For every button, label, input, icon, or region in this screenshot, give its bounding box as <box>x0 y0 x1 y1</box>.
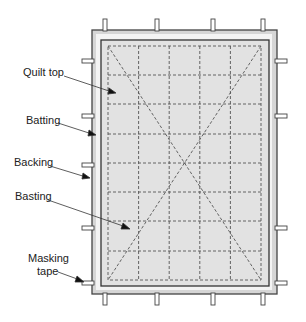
label-backing: Backing <box>14 156 53 168</box>
label-basting: Basting <box>15 190 52 202</box>
label-masking-tape-line2: tape <box>37 265 58 277</box>
label-masking-tape-line1: Masking <box>28 252 69 264</box>
label-quilt-top: Quilt top <box>23 66 64 78</box>
quilt-basting-diagram: Quilt top Batting Backing Basting Maskin… <box>0 0 306 322</box>
label-batting: Batting <box>26 114 60 126</box>
